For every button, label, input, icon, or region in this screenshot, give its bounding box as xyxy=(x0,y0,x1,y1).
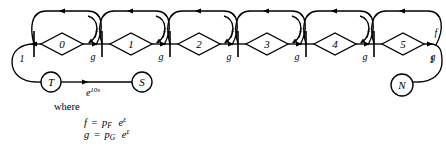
equation-g: g = pG eε xyxy=(84,127,129,142)
equation-g-eq: = xyxy=(94,129,100,140)
feedback-arc-0b xyxy=(32,11,62,44)
circle-label-S: S xyxy=(139,76,145,88)
feedback-arc-5b xyxy=(372,11,402,44)
node-label-5: 5 xyxy=(400,38,406,50)
left-loop-gain-label: 1 xyxy=(20,53,25,64)
branch-label-g-4: g xyxy=(363,51,368,62)
branch-label-f-3: f xyxy=(299,27,303,38)
branch-label-g-0: g xyxy=(91,51,96,62)
transmittance-exponent: 10s xyxy=(90,86,100,94)
feedback-arc-3b xyxy=(236,11,266,44)
node-label-4: 4 xyxy=(332,38,338,50)
branch-label-g-1: g xyxy=(159,51,164,62)
equation-f-exp-sup: ε xyxy=(123,115,126,124)
node-label-0: 0 xyxy=(59,38,65,50)
node-label-2: 2 xyxy=(196,38,202,50)
where-label: where xyxy=(54,101,80,112)
equation-g-exp-sup: ε xyxy=(126,127,129,136)
feedback-arc-1b xyxy=(100,11,130,44)
node-label-1: 1 xyxy=(128,38,134,50)
equation-g-lhs: g xyxy=(84,129,89,140)
branch-label-g-2: g xyxy=(227,51,232,62)
equation-g-coef-sub: G xyxy=(110,133,115,142)
node-label-3: 3 xyxy=(263,38,270,50)
right-loop-gain-label: 1 xyxy=(430,54,435,65)
branch-label-f-5: f xyxy=(435,27,439,38)
circle-label-N: N xyxy=(397,79,406,91)
signal-flow-graph: 0 1 2 3 4 5 f f f f f f g g g g g g 1 1 … xyxy=(0,0,446,147)
branch-label-f-0: f xyxy=(95,27,99,38)
graph-label-group: 0 1 2 3 4 5 f f f f f f g g g g g g 1 1 … xyxy=(20,27,439,98)
circle-label-T: T xyxy=(48,76,55,88)
branch-label-f-2: f xyxy=(231,27,235,38)
feedback-arc-2b xyxy=(168,11,198,44)
branch-label-g-3: g xyxy=(295,51,300,62)
branch-label-f-4: f xyxy=(367,27,371,38)
diagram-canvas: 0 1 2 3 4 5 f f f f f f g g g g g g 1 1 … xyxy=(0,0,446,147)
flow-line-group xyxy=(12,11,442,82)
branch-label-f-1: f xyxy=(163,27,167,38)
feedback-arc-4b xyxy=(304,11,334,44)
transmittance-label: e10s xyxy=(86,86,100,98)
